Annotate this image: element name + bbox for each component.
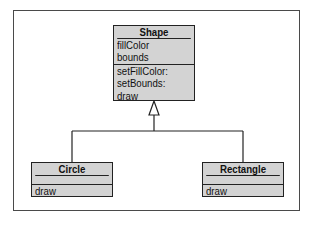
method: draw (117, 90, 188, 102)
method: draw (206, 185, 277, 197)
attributes-section: fillColor bounds (114, 39, 194, 65)
method: setFillColor: (117, 65, 188, 77)
methods-section: setFillColor: setBounds: draw (114, 65, 194, 102)
class-rectangle: Rectangle draw (202, 162, 284, 197)
methods-section: draw (203, 185, 283, 197)
attributes-section (32, 176, 112, 185)
method: setBounds: (117, 77, 188, 89)
class-shape: Shape fillColor bounds setFillColor: set… (113, 25, 195, 101)
generalization-arrow-icon (149, 101, 159, 115)
class-circle: Circle draw (31, 162, 113, 197)
attribute: bounds (117, 51, 188, 63)
class-name: Rectangle (206, 163, 280, 176)
attribute: fillColor (117, 39, 188, 51)
method: draw (35, 185, 106, 197)
attributes-section (203, 176, 283, 185)
class-name: Shape (117, 26, 191, 39)
methods-section: draw (32, 185, 112, 197)
class-name: Circle (35, 163, 109, 176)
